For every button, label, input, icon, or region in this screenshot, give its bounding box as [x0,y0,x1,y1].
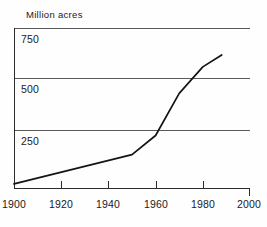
gridlines [14,29,250,131]
y-axis-label-500: 500 [21,83,39,95]
y-axis-label-750: 750 [21,33,39,45]
line-chart-plot: 750 500 250 1900 1920 1940 1960 1980 200… [0,0,267,227]
data-series-line [14,55,222,184]
x-axis-label-2000: 2000 [237,198,261,210]
y-axis-label-250: 250 [21,135,39,147]
y-axis-labels: 750 500 250 [21,33,39,147]
x-axis-label-1900: 1900 [2,198,26,210]
x-axis-label-1980: 1980 [191,198,215,210]
x-axis-label-1960: 1960 [144,198,168,210]
x-axis-labels: 1900 1920 1940 1960 1980 2000 [2,198,261,210]
axes [14,28,250,189]
x-axis-label-1940: 1940 [96,198,120,210]
x-axis-label-1920: 1920 [49,198,73,210]
chart-container: Million acres 750 500 250 1900 1920 [0,0,267,227]
